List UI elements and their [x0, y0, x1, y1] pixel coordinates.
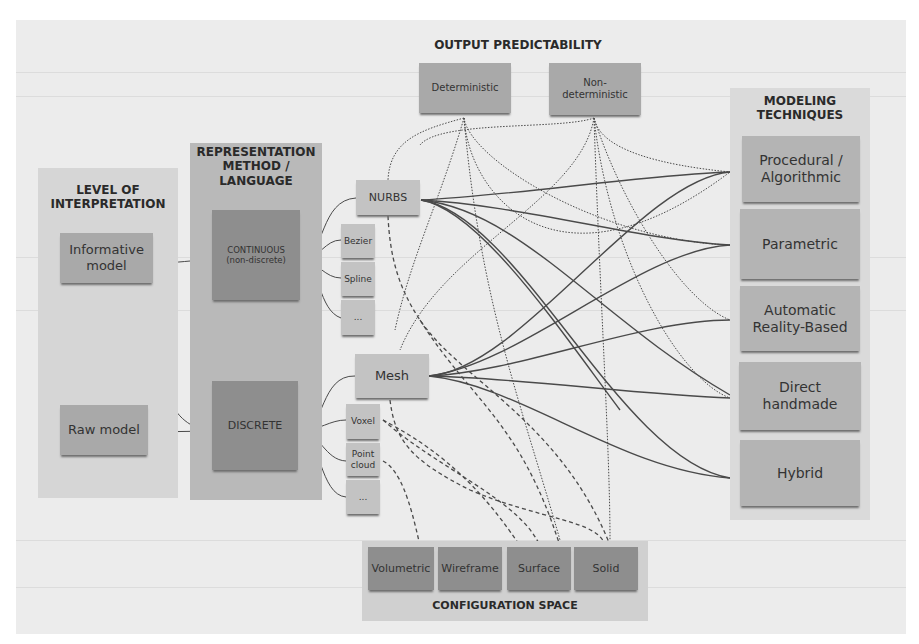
volumetric-label: Volumetric [372, 562, 431, 575]
automatic-reality-based-box: Automatic Reality-Based [740, 286, 860, 351]
deterministic-label: Deterministic [432, 82, 499, 94]
continuous-box: CONTINUOUS (non-discrete) [212, 210, 300, 300]
raw-model-box: Raw model [60, 405, 148, 455]
automatic-reality-based-label: Automatic Reality-Based [752, 302, 847, 336]
point-cloud-box: Point cloud [346, 443, 380, 476]
spline-label: Spline [344, 274, 372, 285]
hybrid-box: Hybrid [740, 440, 860, 506]
solid-label: Solid [593, 562, 620, 575]
solid-box: Solid [574, 547, 638, 590]
parametric-label: Parametric [762, 236, 838, 253]
discrete-box: DISCRETE [212, 381, 298, 470]
non-deterministic-box: Non- deterministic [549, 63, 641, 115]
level-of-interpretation-title: LEVEL OF INTERPRETATION [38, 183, 178, 212]
discrete-more-box: ... [346, 480, 380, 514]
spline-box: Spline [341, 262, 375, 296]
deterministic-box: Deterministic [419, 63, 511, 113]
non-deterministic-label: Non- deterministic [562, 77, 628, 101]
modeling-techniques-title: MODELING TECHNIQUES [730, 94, 870, 123]
continuous-label: CONTINUOUS (non-discrete) [226, 245, 286, 265]
raw-model-label: Raw model [68, 422, 140, 438]
wireframe-box: Wireframe [438, 547, 502, 590]
voxel-box: Voxel [346, 404, 380, 439]
discrete-more-label: ... [359, 492, 368, 503]
point-cloud-label: Point cloud [351, 449, 375, 471]
mesh-label: Mesh [375, 368, 409, 384]
mesh-box: Mesh [355, 354, 429, 398]
discrete-label: DISCRETE [228, 419, 283, 432]
parametric-box: Parametric [740, 209, 860, 279]
nurbs-box: NURBS [356, 180, 420, 215]
informative-model-label: Informative model [69, 242, 144, 273]
volumetric-box: Volumetric [368, 547, 434, 590]
nurbs-label: NURBS [369, 191, 407, 204]
surface-box: Surface [507, 547, 571, 590]
hybrid-label: Hybrid [777, 465, 823, 482]
direct-handmade-box: Direct handmade [739, 362, 861, 430]
representation-method-title: REPRESENTATION METHOD / LANGUAGE [190, 145, 322, 188]
continuous-more-box: ... [341, 300, 375, 335]
voxel-label: Voxel [351, 416, 375, 427]
informative-model-box: Informative model [60, 233, 153, 283]
surface-label: Surface [518, 562, 560, 575]
direct-handmade-label: Direct handmade [763, 379, 838, 413]
procedural-algorithmic-label: Procedural / Algorithmic [759, 152, 843, 186]
configuration-space-title: CONFIGURATION SPACE [362, 599, 648, 612]
procedural-algorithmic-box: Procedural / Algorithmic [742, 136, 860, 202]
bezier-label: Bezier [344, 236, 372, 247]
output-predictability-title: OUTPUT PREDICTABILITY [398, 38, 638, 52]
continuous-more-label: ... [354, 312, 363, 323]
bezier-box: Bezier [341, 224, 375, 258]
wireframe-label: Wireframe [441, 562, 498, 575]
